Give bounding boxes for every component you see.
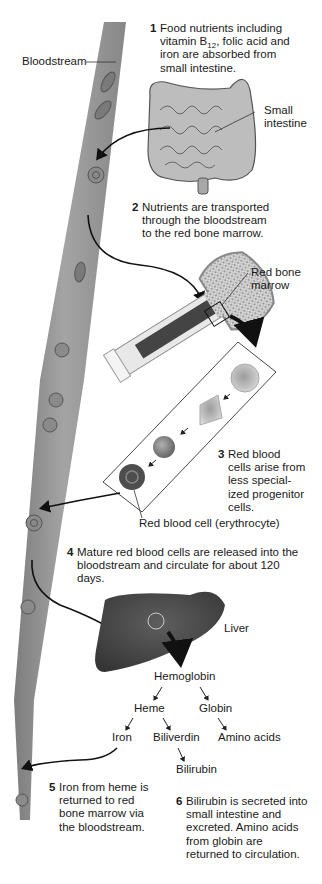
step-5: 5 Iron from heme is returned to red bone… [59,781,148,834]
label-red-bone-marrow-1: Red bone [251,266,301,280]
step-6: 6 Bilirubin is secreted into small intes… [186,795,307,861]
intestine-illustration [148,79,256,194]
breakdown-arrows [24,687,226,768]
step-4: 4 Mature red blood cells are released in… [77,546,298,586]
label-biliverdin: Biliverdin [153,731,200,745]
label-small-intestine-1: Small [264,104,293,118]
label-heme: Heme [134,702,165,716]
label-iron: Iron [112,731,132,745]
label-red-bone-marrow-2: marrow [251,279,289,293]
step-1: 1 Food nutrients including vitamin B12, … [160,22,290,75]
liver-illustration [95,592,225,672]
label-red-blood-cell: Red blood cell (erythrocyte) [139,517,280,531]
label-bloodstream: Bloodstream [22,55,87,69]
label-bilirubin: Bilirubin [176,763,217,777]
label-hemoglobin: Hemoglobin [154,670,215,684]
bloodstream-vessel [14,22,126,820]
label-small-intestine-2: intestine [264,117,307,131]
label-globin: Globin [199,702,232,716]
diagram-artwork [0,0,322,884]
step-2: 2 Nutrients are transported through the … [142,201,269,241]
label-liver: Liver [224,622,249,636]
label-amino-acids: Amino acids [218,731,281,745]
step-3: 3 Red blood cells arise from less specia… [228,448,305,514]
